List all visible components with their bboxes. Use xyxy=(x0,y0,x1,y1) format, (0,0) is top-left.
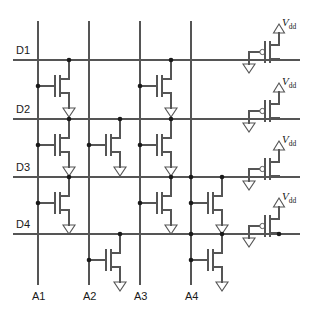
ground-triangle xyxy=(243,64,255,73)
gate-connection-dot xyxy=(36,84,41,89)
gate-connection-dot xyxy=(36,143,41,148)
nmos-transistor xyxy=(106,135,111,155)
drain-connection-dot xyxy=(118,232,123,237)
ground-triangle xyxy=(165,225,177,234)
gate-connection-dot xyxy=(87,143,92,148)
ground-triangle xyxy=(63,167,75,176)
junction-dot-pullup-D4 xyxy=(277,232,282,237)
gate-connection-dot xyxy=(189,201,194,206)
nmos-transistor xyxy=(106,250,111,270)
pmos-pullup-D1 xyxy=(243,24,285,73)
supply-label-4: Vdd xyxy=(282,190,296,205)
nmos-cell-A1-D3 xyxy=(36,175,75,234)
nmos-cell-A4-D4 xyxy=(189,232,228,291)
nmos-transistor xyxy=(55,135,60,155)
ground-symbol xyxy=(63,102,75,117)
nmos-cell-A1-D2 xyxy=(36,117,75,176)
ground-triangle xyxy=(114,167,126,176)
pmos-transistor xyxy=(265,216,270,236)
gate-connection-dot xyxy=(189,258,194,263)
row-label-D1: D1 xyxy=(16,44,30,56)
ground-symbol xyxy=(165,102,177,117)
ground-symbol xyxy=(114,276,126,291)
nmos-cell-group xyxy=(36,58,228,291)
drain-connection-dot xyxy=(169,175,174,180)
drain-connection-dot xyxy=(67,175,72,180)
drain-connection-dot xyxy=(169,58,174,63)
pmos-transistor xyxy=(265,101,270,121)
pmos-transistor xyxy=(265,42,270,62)
nmos-cell-A3-D3 xyxy=(138,175,177,234)
pmos-transistor xyxy=(265,159,270,179)
nmos-cell-A1-D1 xyxy=(36,58,75,117)
ground-triangle xyxy=(216,282,228,291)
column-label-A2: A2 xyxy=(83,290,96,302)
nmos-transistor xyxy=(157,135,162,155)
row-label-D2: D2 xyxy=(16,103,30,115)
supply-label-sub: dd xyxy=(289,196,297,205)
nmos-cell-A2-D2 xyxy=(87,117,126,176)
nmos-transistor xyxy=(208,193,213,213)
nmos-cell-A4-D3 xyxy=(189,175,228,234)
ground-triangle xyxy=(165,167,177,176)
ground-triangle xyxy=(114,282,126,291)
label-group: D1D2D3D4A1A2A3A4VddVddVddVdd xyxy=(16,16,296,302)
column-label-A3: A3 xyxy=(134,290,147,302)
nmos-transistor xyxy=(157,76,162,96)
nmos-cell-A3-D2 xyxy=(138,117,177,176)
gate-connection-dot xyxy=(36,201,41,206)
nmos-cell-A3-D1 xyxy=(138,58,177,117)
supply-label-sub: dd xyxy=(289,22,297,31)
ground-symbol xyxy=(165,219,177,234)
column-label-A1: A1 xyxy=(32,290,45,302)
ground-triangle xyxy=(243,238,255,247)
ground-symbol xyxy=(63,219,75,234)
drain-connection-dot xyxy=(169,117,174,122)
supply-label-3: Vdd xyxy=(282,133,296,148)
nmos-transistor xyxy=(55,193,60,213)
pmos-inversion-bubble xyxy=(260,108,265,113)
nmos-transistor xyxy=(208,250,213,270)
junction-dot-A4-D4 xyxy=(189,232,194,237)
address-column-lines xyxy=(38,22,191,284)
junction-dot-group xyxy=(189,175,282,237)
nmos-cell-A2-D4 xyxy=(87,232,126,291)
ground-triangle xyxy=(63,108,75,117)
drain-connection-dot xyxy=(220,232,225,237)
pmos-pullup-D4 xyxy=(243,198,285,247)
ground-symbol xyxy=(165,161,177,176)
pmos-inversion-bubble xyxy=(260,166,265,171)
supply-label-sub: dd xyxy=(289,81,297,90)
drain-connection-dot xyxy=(118,117,123,122)
supply-label-2: Vdd xyxy=(282,75,296,90)
ground-symbol xyxy=(216,276,228,291)
pmos-pullup-D3 xyxy=(243,141,285,190)
gate-connection-dot xyxy=(138,143,143,148)
pmos-pullup-group xyxy=(243,24,285,247)
ground-symbol xyxy=(63,161,75,176)
drain-connection-dot xyxy=(67,117,72,122)
drain-connection-dot xyxy=(67,58,72,63)
gate-connection-dot xyxy=(87,258,92,263)
pmos-inversion-bubble xyxy=(260,223,265,228)
ground-triangle xyxy=(165,108,177,117)
gate-connection-dot xyxy=(138,84,143,89)
drain-connection-dot xyxy=(220,175,225,180)
column-label-A4: A4 xyxy=(185,290,198,302)
schematic-svg: D1D2D3D4A1A2A3A4VddVddVddVdd xyxy=(0,0,309,312)
supply-label-sub: dd xyxy=(289,139,297,148)
ground-triangle xyxy=(243,181,255,190)
pmos-pullup-D2 xyxy=(243,83,285,132)
ground-symbol xyxy=(114,161,126,176)
ground-triangle xyxy=(63,225,75,234)
nmos-transistor xyxy=(157,193,162,213)
row-label-D4: D4 xyxy=(16,218,30,230)
circuit-diagram-canvas: D1D2D3D4A1A2A3A4VddVddVddVdd xyxy=(0,0,309,312)
nmos-transistor xyxy=(55,76,60,96)
junction-dot-A4-D3 xyxy=(189,175,194,180)
supply-label-1: Vdd xyxy=(282,16,296,31)
ground-triangle xyxy=(243,123,255,132)
pmos-inversion-bubble xyxy=(260,49,265,54)
gate-connection-dot xyxy=(138,201,143,206)
row-label-D3: D3 xyxy=(16,161,30,173)
